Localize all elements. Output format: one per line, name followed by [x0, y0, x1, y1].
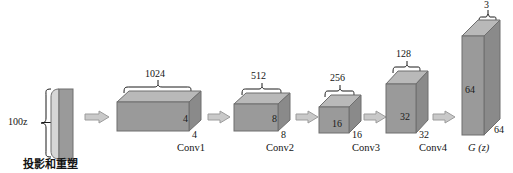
conv4-channels-label: 128 — [396, 49, 411, 59]
latent-vector-block — [50, 88, 74, 160]
output-spatial-inner-label: 64 — [465, 85, 475, 95]
conv2-stage-label: Conv2 — [266, 143, 294, 154]
conv1-block — [116, 90, 202, 134]
conv4-spatial-depth-label: 32 — [419, 130, 429, 140]
conv4-block — [385, 70, 429, 136]
conv3-channels-label: 256 — [330, 73, 345, 83]
conv2-channels-label: 512 — [251, 71, 266, 81]
conv1-spatial-inner-label: 4 — [183, 114, 188, 124]
conv1-channels-label: 1024 — [145, 69, 165, 79]
arrow-conv2-to-conv3-icon — [295, 110, 319, 124]
arrow-conv3-to-conv4-icon — [363, 110, 387, 124]
arrow-conv4-to-output-icon — [432, 110, 456, 124]
conv2-block — [233, 92, 291, 134]
diagram-canvas: 100z 投影和重塑 1024 4 4 Conv1 512 — [0, 0, 513, 173]
output-stage-label: G (z) — [468, 143, 489, 154]
conv2-spatial-depth-label: 8 — [281, 130, 286, 140]
conv3-stage-label: Conv3 — [352, 143, 380, 154]
output-spatial-depth-label: 64 — [494, 125, 504, 135]
projection-reshape-caption: 投影和重塑 — [23, 159, 78, 170]
conv3-spatial-inner-label: 16 — [332, 119, 342, 129]
output-block — [461, 19, 505, 137]
arrow-latent-to-conv1-icon — [84, 110, 110, 124]
conv1-stage-label: Conv1 — [177, 143, 205, 154]
latent-label: 100z — [8, 117, 27, 127]
conv2-spatial-inner-label: 8 — [272, 114, 277, 124]
arrow-conv1-to-conv2-icon — [207, 110, 231, 124]
conv1-spatial-depth-label: 4 — [192, 130, 197, 140]
conv4-spatial-inner-label: 32 — [400, 112, 410, 122]
conv3-spatial-depth-label: 16 — [352, 130, 362, 140]
output-channels-label: 3 — [484, 0, 489, 10]
conv4-stage-label: Conv4 — [419, 143, 447, 154]
